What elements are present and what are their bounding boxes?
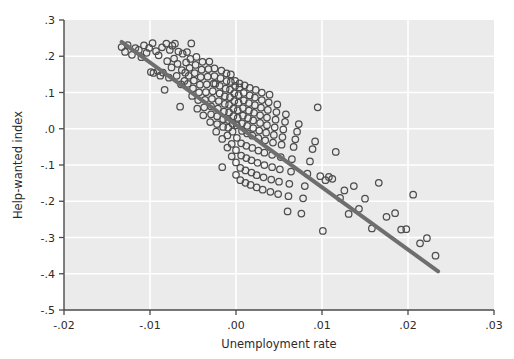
chart-canvas: -.02-.01.00.01.02.03 .3.2.1.0-.1-.2-.3-.…: [0, 0, 514, 359]
y-tick-label: .0: [45, 123, 56, 136]
x-tick-label: .03: [485, 319, 503, 332]
y-tick-label: .2: [45, 50, 56, 63]
x-tick-label: .01: [313, 319, 331, 332]
y-tick-label: .1: [45, 87, 56, 100]
x-tick-label: -.02: [53, 319, 74, 332]
y-tick-label: -.2: [41, 195, 55, 208]
x-tick-label: .00: [227, 319, 245, 332]
y-tick-label: -.1: [41, 159, 55, 172]
x-axis-title: Unemployment rate: [221, 337, 336, 351]
x-tick-label: -.01: [139, 319, 160, 332]
scatter-chart-figure: -.02-.01.00.01.02.03 .3.2.1.0-.1-.2-.3-.…: [0, 0, 514, 359]
y-tick-label: .3: [45, 14, 56, 27]
y-axis-title: Help-wanted index: [11, 111, 25, 219]
y-tick-label: -.5: [41, 304, 55, 317]
y-tick-label: -.3: [41, 232, 55, 245]
x-tick-label: .02: [399, 319, 417, 332]
y-tick-label: -.4: [41, 268, 55, 281]
